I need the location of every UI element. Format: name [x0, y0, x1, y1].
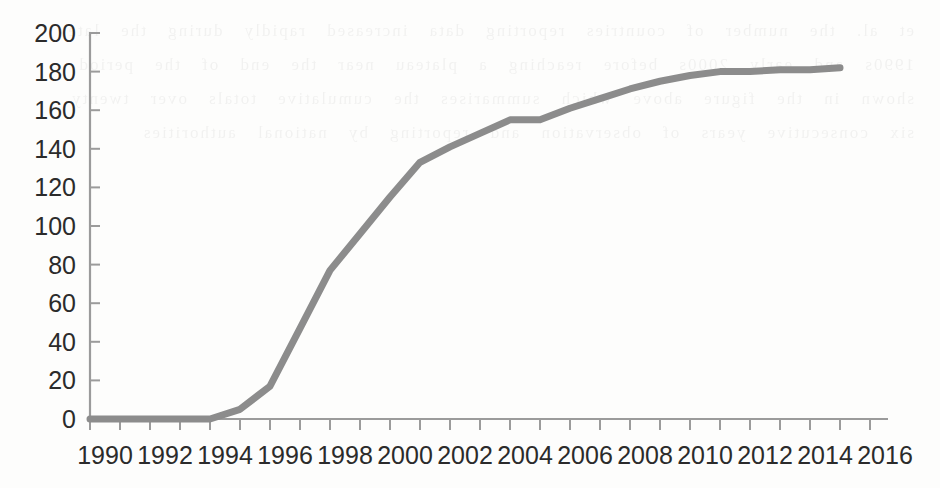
y-tick-label: 40 [48, 328, 76, 356]
x-tick-label: 1998 [317, 441, 373, 469]
line-chart: et al. the number of countries reporting… [0, 0, 940, 488]
x-tick-label: 2002 [437, 441, 493, 469]
x-tick-label: 2008 [617, 441, 673, 469]
chart-canvas: 020406080100120140160180200 199019921994… [0, 0, 940, 488]
y-tick-label: 120 [34, 173, 76, 201]
x-tick-label: 2000 [377, 441, 433, 469]
y-tick-label: 100 [34, 212, 76, 240]
x-tick-label: 1996 [257, 441, 313, 469]
x-tick-label: 1990 [77, 441, 133, 469]
x-tick-labels: 1990199219941996199820002002200420062008… [77, 441, 913, 469]
y-tick-label: 160 [34, 96, 76, 124]
y-tick-label: 60 [48, 289, 76, 317]
series-line-cumulative-count [90, 68, 840, 419]
x-tick-label: 2014 [797, 441, 853, 469]
y-tick-marks [90, 72, 100, 381]
x-tick-label: 2016 [857, 441, 913, 469]
y-axis-group: 020406080100120140160180200 [34, 19, 100, 433]
y-tick-label: 140 [34, 135, 76, 163]
y-tick-label: 0 [62, 405, 76, 433]
series-group [90, 68, 840, 419]
x-tick-label: 2004 [497, 441, 553, 469]
y-tick-label: 180 [34, 58, 76, 86]
x-tick-label: 1994 [197, 441, 253, 469]
y-tick-label: 20 [48, 366, 76, 394]
y-tick-labels: 020406080100120140160180200 [34, 19, 76, 433]
x-tick-label: 1992 [137, 441, 193, 469]
x-tick-label: 2012 [737, 441, 793, 469]
y-tick-label: 80 [48, 251, 76, 279]
x-axis-group: 1990199219941996199820002002200420062008… [77, 419, 913, 469]
x-tick-label: 2010 [677, 441, 733, 469]
y-tick-label: 200 [34, 19, 76, 47]
x-tick-label: 2006 [557, 441, 613, 469]
